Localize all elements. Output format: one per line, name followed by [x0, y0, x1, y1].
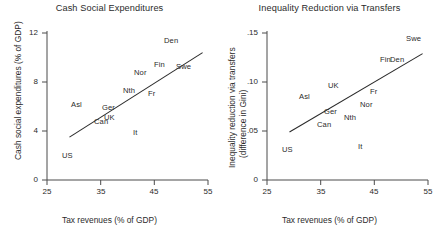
- y-tick-label-right-3: .15: [235, 28, 258, 37]
- point-label-nth: Nth: [344, 113, 356, 122]
- y-tick-label-left-0: 0: [18, 175, 38, 184]
- point-label-swe: Swe: [406, 34, 421, 43]
- y-tick-label-right-0: 0: [235, 175, 258, 184]
- y-axis-title-right-line2: (difference in Gini): [239, 90, 249, 158]
- panel-cash-social-expenditures: Cash Social Expenditures 12 8 4 0 25 35 …: [0, 0, 219, 228]
- x-axis-title-left: Tax revenues (% of GDP): [0, 215, 219, 225]
- point-label-uk: UK: [328, 81, 339, 90]
- point-label-nor: Nor: [134, 68, 147, 77]
- point-label-asl: Asl: [299, 92, 310, 101]
- y-axis-title-left: Cash social expenditures (% of GDP): [13, 21, 23, 160]
- x-tick-label-right-2: 45: [364, 187, 384, 196]
- x-tick-label-right-1: 35: [311, 187, 331, 196]
- point-label-can: Can: [317, 120, 331, 129]
- y-tick-label-right-2: .10: [235, 77, 258, 86]
- point-label-nor: Nor: [360, 100, 373, 109]
- x-tick-label-left-2: 45: [144, 187, 164, 196]
- point-label-den: Den: [390, 55, 404, 64]
- point-label-fr: Fr: [370, 87, 377, 96]
- x-tick-label-right-0: 25: [257, 187, 277, 196]
- point-label-fin: Fin: [154, 60, 165, 69]
- point-label-us: US: [282, 145, 293, 154]
- point-label-swe: Swe: [176, 62, 191, 71]
- point-label-it: It: [133, 128, 137, 137]
- point-label-den: Den: [164, 36, 178, 45]
- two-panel-scatter-figure: Cash Social Expenditures 12 8 4 0 25 35 …: [0, 0, 439, 228]
- point-label-us: US: [62, 151, 73, 160]
- x-tick-label-left-3: 55: [198, 187, 218, 196]
- y-axis-title-right-line1: Inequality reduction via transfers: [228, 47, 238, 168]
- x-tick-label-left-1: 35: [91, 187, 111, 196]
- panel-inequality-reduction: Inequality Reduction via Transfers .15 .…: [220, 0, 439, 228]
- point-label-ger: Ger: [324, 107, 337, 116]
- x-tick-label-left-0: 25: [37, 187, 57, 196]
- point-label-fr: Fr: [148, 89, 155, 98]
- point-label-it: It: [358, 142, 362, 151]
- point-label-nth: Nth: [123, 86, 135, 95]
- point-label-asl: Asl: [71, 100, 82, 109]
- x-tick-label-right-3: 55: [418, 187, 438, 196]
- point-label-uk: UK: [104, 113, 115, 122]
- point-label-ger: Ger: [102, 103, 115, 112]
- x-axis-title-right: Tax revenues (% of GDP): [220, 215, 439, 225]
